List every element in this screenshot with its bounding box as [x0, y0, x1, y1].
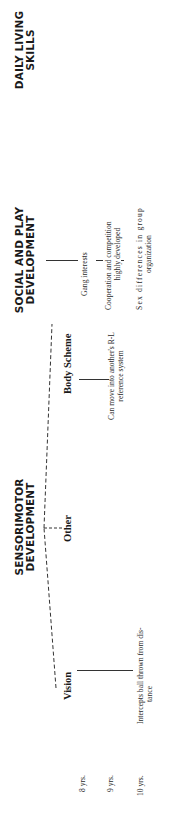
- social-entry-9-line2: highly developed: [113, 198, 122, 310]
- subhead-other: Other: [62, 515, 73, 542]
- developmental-chart-page: SENSORIMOTOR DEVELOPMENT SOCIAL AND PLAY…: [0, 0, 169, 836]
- age-10: 10 yrs.: [136, 775, 145, 796]
- social-entry-10-line2: organization: [144, 198, 153, 310]
- body-scheme-connector: [79, 379, 109, 380]
- social-entry-8: Gang interests: [80, 252, 89, 296]
- subhead-vision: Vision: [62, 672, 73, 700]
- body-scheme-entry-9-line1: Can move into another's R-L: [107, 316, 116, 436]
- social-entry-10-line1: Sex differences in group: [135, 198, 144, 310]
- vision-entry-10: Intercepts ball thrown from dis- tance: [136, 614, 154, 724]
- age-8: 8 yrs.: [78, 775, 87, 792]
- social-entry-9-line1: Cooperation and competition: [104, 198, 113, 310]
- subhead-body-scheme: Body Scheme: [62, 334, 73, 394]
- social-connector-top: [46, 260, 78, 261]
- body-scheme-entry-9-line2: reference system: [116, 316, 125, 436]
- age-9: 9 yrs.: [106, 775, 115, 792]
- body-scheme-entry-9: Can move into another's R-L reference sy…: [107, 316, 125, 436]
- social-entry-10: Sex differences in group organization: [135, 198, 153, 310]
- vision-entry-10-line1: Intercepts ball thrown from dis-: [136, 614, 145, 724]
- vision-entry-10-line2: tance: [145, 614, 154, 724]
- social-connector-mid: [96, 260, 103, 261]
- vision-connector: [77, 670, 133, 671]
- social-entry-9: Cooperation and competition highly devel…: [104, 198, 122, 310]
